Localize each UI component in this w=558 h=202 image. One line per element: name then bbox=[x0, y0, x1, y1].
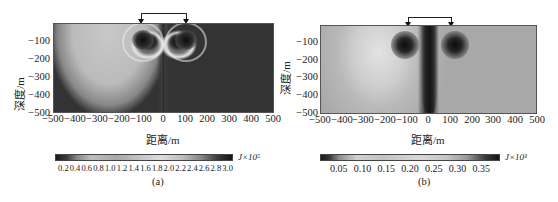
ytick-a: −200 bbox=[16, 54, 50, 64]
cb-tick-b: 0.05 bbox=[330, 164, 348, 173]
cb-tick-a: 1.4 bbox=[128, 164, 139, 173]
xtick-b: 500 bbox=[522, 115, 552, 125]
colorbar-a bbox=[55, 154, 233, 161]
colorbar-unit-b: J×10³ bbox=[505, 152, 527, 162]
panel-label-b: (b) bbox=[418, 176, 430, 187]
y-axis-label-a: 深度/m bbox=[11, 77, 27, 111]
colorbar-ticks-a: 0.2 0.4 0.6 0.8 1.0 1.2 1.4 1.6 1.8 2.0 … bbox=[58, 164, 233, 173]
colorbar-unit-a: J×10⁵ bbox=[238, 152, 260, 162]
cb-tick-a: 2.0 bbox=[164, 164, 175, 173]
cb-tick-b: 0.30 bbox=[449, 164, 467, 173]
panel-a: −100 −200 −300 −400 −500 深度/m −500 −400 … bbox=[0, 0, 280, 202]
bright-ring-left-a bbox=[122, 23, 164, 62]
cb-tick-a: 0.4 bbox=[70, 164, 81, 173]
cb-tick-a: 0.8 bbox=[93, 164, 104, 173]
cb-tick-b: 0.10 bbox=[354, 164, 372, 173]
y-axis-label-b: 深度/m bbox=[277, 61, 293, 95]
cb-tick-a: 3.0 bbox=[222, 164, 233, 173]
source-wire-b bbox=[408, 17, 451, 18]
colorbar-b bbox=[320, 154, 500, 161]
cb-tick-b: 0.15 bbox=[378, 164, 396, 173]
colorbar-ticks-b: 0.05 0.10 0.15 0.20 0.25 0.30 0.35 bbox=[330, 164, 490, 173]
cb-tick-a: 2.2 bbox=[175, 164, 186, 173]
dark-lobe-left-b bbox=[391, 31, 419, 59]
center-dark-band-b bbox=[421, 26, 438, 114]
cb-tick-a: 1.0 bbox=[105, 164, 116, 173]
cb-tick-a: 0.2 bbox=[58, 164, 69, 173]
cb-tick-a: 2.8 bbox=[211, 164, 222, 173]
ytick-a: −100 bbox=[16, 36, 50, 46]
cb-tick-b: 0.35 bbox=[473, 164, 491, 173]
panel-label-a: (a) bbox=[152, 176, 164, 187]
heatmap-plot-a bbox=[53, 23, 274, 113]
source-wire-a bbox=[141, 13, 186, 14]
x-axis-label-a: 距离/m bbox=[146, 131, 180, 147]
ytick-b: −100 bbox=[284, 37, 318, 47]
heatmap-plot-b bbox=[320, 25, 537, 114]
bright-ring-right-a bbox=[165, 23, 207, 62]
panel-b: −100 −200 −300 −400 −500 深度/m −500 −400 … bbox=[280, 0, 558, 202]
cb-tick-a: 1.6 bbox=[140, 164, 151, 173]
cb-tick-b: 0.20 bbox=[401, 164, 419, 173]
cb-tick-a: 1.2 bbox=[117, 164, 128, 173]
dark-lobe-right-b bbox=[441, 31, 469, 59]
x-axis-label-b: 距离/m bbox=[411, 131, 445, 147]
cb-tick-a: 0.6 bbox=[81, 164, 92, 173]
cb-tick-a: 1.8 bbox=[152, 164, 163, 173]
cb-tick-a: 2.4 bbox=[187, 164, 198, 173]
cb-tick-a: 2.6 bbox=[199, 164, 210, 173]
cb-tick-b: 0.25 bbox=[425, 164, 443, 173]
